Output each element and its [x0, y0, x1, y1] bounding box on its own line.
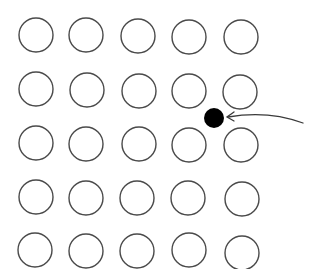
grid-circle-r2-c3 [122, 74, 156, 108]
grid-circle-r2-c1 [19, 72, 53, 106]
grid-circle-r3-c1 [19, 126, 53, 160]
grid-circle-r4-c2 [69, 181, 103, 215]
grid-circle-r5-c2 [69, 234, 103, 268]
diagram-canvas: 5x5 grid of hollow circles with a solid … [0, 0, 325, 269]
grid-circle-r2-c5 [223, 75, 257, 109]
grid-circle-r2-c2 [70, 73, 104, 107]
grid-circle-r5-c3 [120, 234, 154, 268]
circle-grid [18, 18, 259, 269]
highlight-dot [204, 108, 224, 128]
grid-circle-r3-c3 [122, 127, 156, 161]
grid-circle-r3-c4 [172, 128, 206, 162]
grid-circle-r4-c5 [225, 182, 259, 216]
grid-circle-r3-c2 [69, 127, 103, 161]
grid-circle-r4-c3 [120, 181, 154, 215]
grid-circle-r3-c5 [224, 128, 258, 162]
grid-circle-r4-c1 [19, 180, 53, 214]
grid-circle-r1-c5 [224, 20, 258, 54]
pointer-arrow [227, 112, 303, 123]
grid-circle-r1-c1 [19, 18, 53, 52]
grid-circle-r4-c4 [171, 181, 205, 215]
grid-circle-r5-c5 [225, 236, 259, 269]
grid-circle-r1-c2 [69, 18, 103, 52]
arrow-shaft [228, 115, 303, 123]
grid-circle-r5-c4 [172, 233, 206, 267]
circle-grid-diagram [0, 0, 325, 269]
grid-circle-r5-c1 [18, 233, 52, 267]
grid-circle-r2-c4 [172, 74, 206, 108]
grid-circle-r1-c4 [172, 20, 206, 54]
grid-circle-r1-c3 [121, 19, 155, 53]
